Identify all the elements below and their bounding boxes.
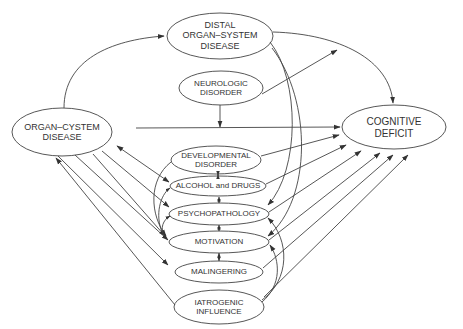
node-text: NEUROLOGIC (194, 79, 248, 88)
node-neurologic-disorder: NEUROLOGIC DISORDER (194, 79, 248, 97)
node-text: COGNITIVE (366, 116, 421, 128)
node-text: MOTIVATION (195, 237, 244, 246)
node-text: IATROGENIC (194, 298, 243, 307)
node-text: ORGAN–CYSTEM (24, 122, 100, 132)
node-text: DISEASE (24, 132, 100, 142)
node-distal-organ-system-disease: DISTAL ORGAN–SYSTEM DISEASE (182, 20, 257, 51)
node-alcohol-and-drugs: ALCOHOL and DRUGS (176, 181, 261, 190)
node-text: MALINGERING (191, 267, 247, 276)
node-organ-system-disease: ORGAN–CYSTEM DISEASE (24, 122, 100, 143)
node-text: ORGAN–SYSTEM (182, 31, 257, 41)
diagram-canvas: DISTAL ORGAN–SYSTEM DISEASE NEUROLOGIC D… (0, 0, 463, 329)
node-psychopathology: PSYCHOPATHOLOGY (178, 209, 260, 218)
node-text: DISORDER (181, 160, 251, 169)
node-text: DEVELOPMENTAL (181, 151, 251, 160)
node-cognitive-deficit: COGNITIVE DEFICIT (366, 116, 421, 139)
node-malingering: MALINGERING (191, 267, 247, 276)
node-text: INFLUENCE (194, 307, 243, 316)
node-motivation: MOTIVATION (195, 237, 244, 246)
node-text: DISORDER (194, 88, 248, 97)
node-text: ALCOHOL and DRUGS (176, 181, 261, 190)
node-developmental-disorder: DEVELOPMENTAL DISORDER (181, 151, 251, 169)
node-iatrogenic-influence: IATROGENIC INFLUENCE (194, 298, 243, 316)
node-text: DISTAL (182, 20, 257, 30)
node-text: DISEASE (182, 41, 257, 51)
node-text: PSYCHOPATHOLOGY (178, 209, 260, 218)
node-text: DEFICIT (366, 127, 421, 139)
